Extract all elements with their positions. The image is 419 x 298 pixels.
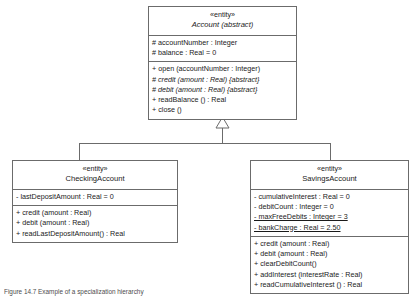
operation-row: + debit (amount : Real) xyxy=(254,249,405,259)
class-name: CheckingAccount xyxy=(16,174,174,185)
figure-caption: Figure 14.7 Example of a specialization … xyxy=(4,288,334,296)
class-operations-account: + open (accountNumber : Integer) # credi… xyxy=(149,61,296,118)
class-stereotype: «entity» xyxy=(254,164,405,174)
class-header-savings-account: «entity» SavingsAccount xyxy=(251,161,408,189)
operation-row: + clearDebitCount() xyxy=(254,259,405,269)
operation-row: + credit (amount : Real) xyxy=(254,239,405,249)
operation-row: + readLastDepositAmount() : Real xyxy=(16,229,174,239)
class-stereotype: «entity» xyxy=(16,164,174,174)
class-attributes-checking-account: - lastDepositAmount : Real = 0 xyxy=(13,189,177,205)
uml-class-checking-account[interactable]: «entity» CheckingAccount - lastDepositAm… xyxy=(12,160,178,243)
uml-class-account[interactable]: «entity» Account (abstract) # accountNum… xyxy=(148,6,297,120)
operation-row: + credit (amount : Real) xyxy=(16,208,174,218)
operation-row: + addInterest (interestRate : Real) xyxy=(254,270,405,280)
attribute-row-static: - bankCharge : Real = 2.50 xyxy=(254,223,405,233)
class-name: SavingsAccount xyxy=(254,174,405,185)
attribute-row: # accountNumber : Integer xyxy=(152,38,293,48)
attribute-row: - lastDepositAmount : Real = 0 xyxy=(16,192,174,202)
class-attributes-account: # accountNumber : Integer # balance : Re… xyxy=(149,35,296,61)
class-operations-savings-account: + credit (amount : Real) + debit (amount… xyxy=(251,236,408,293)
operation-row: + readBalance () : Real xyxy=(152,95,293,105)
uml-class-savings-account[interactable]: «entity» SavingsAccount - cumulativeInte… xyxy=(250,160,409,294)
class-header-account: «entity» Account (abstract) xyxy=(149,7,296,35)
attribute-row: # balance : Real = 0 xyxy=(152,48,293,58)
attribute-row-static: - maxFreeDebits : Integer = 3 xyxy=(254,212,405,222)
attribute-row: - debitCount : Integer = 0 xyxy=(254,202,405,212)
uml-class-diagram: «entity» Account (abstract) # accountNum… xyxy=(0,0,419,298)
class-attributes-savings-account: - cumulativeInterest : Real = 0 - debitC… xyxy=(251,189,408,236)
operation-row: + open (accountNumber : Integer) xyxy=(152,64,293,74)
operation-row: # debit (amount : Real) {abstract} xyxy=(152,85,293,95)
operation-row: + close () xyxy=(152,105,293,115)
operation-row: # credit (amount : Real) {abstract} xyxy=(152,75,293,85)
class-stereotype: «entity» xyxy=(152,10,293,20)
attribute-row: - cumulativeInterest : Real = 0 xyxy=(254,192,405,202)
class-header-checking-account: «entity» CheckingAccount xyxy=(13,161,177,189)
class-operations-checking-account: + credit (amount : Real) + debit (amount… xyxy=(13,205,177,242)
class-name: Account (abstract) xyxy=(152,20,293,31)
operation-row: + debit (amount : Real) xyxy=(16,218,174,228)
